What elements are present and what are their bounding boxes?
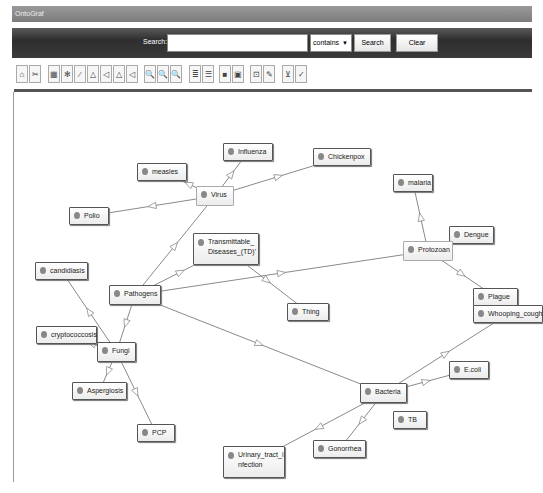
class-icon [201,191,207,198]
arrowhead-icon [274,175,283,181]
arrowhead-icon [254,340,263,346]
node-label: Aspergiosis [87,387,123,394]
graph-node-tb[interactable]: TB [393,411,427,429]
arrowhead-icon [124,319,130,328]
arrowhead-icon [422,379,431,385]
graph-node-malaria[interactable]: malaria [393,174,433,192]
class-icon [454,231,460,238]
node-label: malaria [408,179,431,186]
arrowhead-icon [170,242,178,250]
node-label: Polio [84,212,100,219]
graph-node-thing[interactable]: Thing [287,303,329,321]
graph-node-whooping[interactable]: Whooping_cough [473,305,543,323]
class-icon [77,387,83,394]
node-label: PCP [152,429,166,436]
class-icon [478,310,484,317]
node-label: E.coli [464,366,481,373]
graph-node-influenza[interactable]: Influenza [223,143,273,161]
node-label: Gonorrhea [328,445,361,452]
class-icon [142,429,148,436]
graph-node-candidiasis[interactable]: candidiasis [35,262,88,280]
node-label: Fungi [112,347,130,354]
class-icon [40,267,46,274]
node-label: candidiasis [50,267,85,274]
class-icon [198,239,204,246]
arrowhead-icon [457,269,465,276]
graph-node-pcp[interactable]: PCP [137,424,175,442]
graph-node-pathogens[interactable]: Pathogens [109,285,161,305]
node-label: measles [152,168,178,175]
arrowhead-icon [418,213,424,222]
class-icon [292,308,298,315]
arrowhead-icon [87,308,94,316]
class-icon [478,293,484,300]
graph-node-gonorrhea[interactable]: Gonorrhea [313,440,366,458]
arrowhead-icon [262,276,270,283]
class-icon [74,212,80,219]
graph-node-asperg[interactable]: Aspergiosis [72,382,127,400]
node-label: Thing [302,308,320,315]
graph-node-plague[interactable]: Plague [473,288,518,306]
graph-node-polio[interactable]: Polio [69,207,109,225]
arrowhead-icon [441,351,449,358]
node-label: Plague [488,293,510,300]
node-label: Influenza [238,148,266,155]
class-icon [398,416,404,423]
graph-node-bacteria[interactable]: Bacteria [360,383,407,403]
node-label: Whooping_cough [488,310,543,317]
class-icon [41,331,47,338]
graph-node-measles[interactable]: measles [137,163,187,181]
arrowhead-icon [106,367,112,376]
arrowhead-icon [277,270,285,276]
node-label: Chickenpox [328,153,365,160]
graph-node-chickenpox[interactable]: Chickenpox [313,148,371,166]
class-icon [142,168,148,175]
class-icon [228,452,234,459]
class-icon [454,366,460,373]
class-icon [102,347,108,354]
graph-node-dengue[interactable]: Dengue [449,226,494,244]
node-label: Urinary_tract_i nfection [238,451,284,468]
graph-node-uti[interactable]: Urinary_tract_i nfection [223,446,285,478]
arrowhead-icon [227,171,234,179]
graph-node-crypto[interactable]: cryptococcosis [36,326,97,344]
graph-node-fungi[interactable]: Fungi [97,342,136,362]
class-icon [365,388,371,395]
node-label: Bacteria [375,388,401,395]
graph-node-virus[interactable]: Virus [196,186,234,206]
arrowhead-icon [175,270,184,276]
class-icon [318,153,324,160]
node-label: Protozoan [418,246,450,253]
node-label: Transmittable_ Diseases_(TD)' [208,238,256,255]
graph-node-protozoan[interactable]: Protozoan [403,241,453,261]
arrowhead-icon [359,416,366,424]
graph-node-td[interactable]: Transmittable_ Diseases_(TD)' [193,233,259,265]
class-icon [408,246,414,253]
node-label: Dengue [464,231,489,238]
class-icon [318,445,324,452]
class-icon [398,179,404,186]
class-icon [114,290,120,297]
arrowhead-icon [185,182,194,188]
arrowhead-icon [315,423,324,430]
node-label: Virus [211,191,227,198]
node-label: cryptococcosis [51,331,97,338]
arrowhead-icon [148,202,156,208]
node-label: TB [408,416,417,423]
class-icon [228,148,234,155]
node-label: Pathogens [124,290,157,297]
graph-node-ecoli[interactable]: E.coli [449,361,489,379]
graph-canvas[interactable] [0,0,543,493]
arrowhead-icon [132,388,138,397]
